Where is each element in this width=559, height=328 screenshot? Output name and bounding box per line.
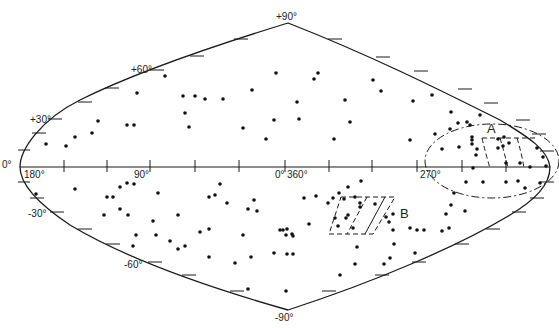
region-b-label: B: [400, 206, 409, 221]
lat-label-plus60: +60°: [131, 64, 152, 75]
lon-label-90: 90°: [134, 169, 149, 180]
source-points: [34, 71, 548, 293]
lat-label-minus60: -60°: [124, 259, 142, 270]
sky-map-diagram: +90° +60° +30° 0° -30° -60° -90° 180° 90…: [0, 0, 559, 328]
lon-label-180: 180°: [24, 169, 45, 180]
lat-label-minus90: -90°: [275, 312, 293, 323]
region-a-label: A: [487, 121, 496, 136]
sky-map-canvas: +90° +60° +30° 0° -30° -60° -90° 180° 90…: [0, 0, 559, 328]
lat-label-plus90: +90°: [276, 11, 297, 22]
lon-label-270: 270°: [420, 169, 441, 180]
lat-label-plus30: +30°: [30, 114, 51, 125]
lon-label-360: 360°: [287, 169, 308, 180]
lat-label-minus30: -30°: [28, 208, 46, 219]
longitude-labels: 180° 90° 0° 360° 270°: [24, 169, 441, 180]
lat-label-0: 0°: [2, 159, 12, 170]
lon-label-0: 0°: [275, 169, 285, 180]
